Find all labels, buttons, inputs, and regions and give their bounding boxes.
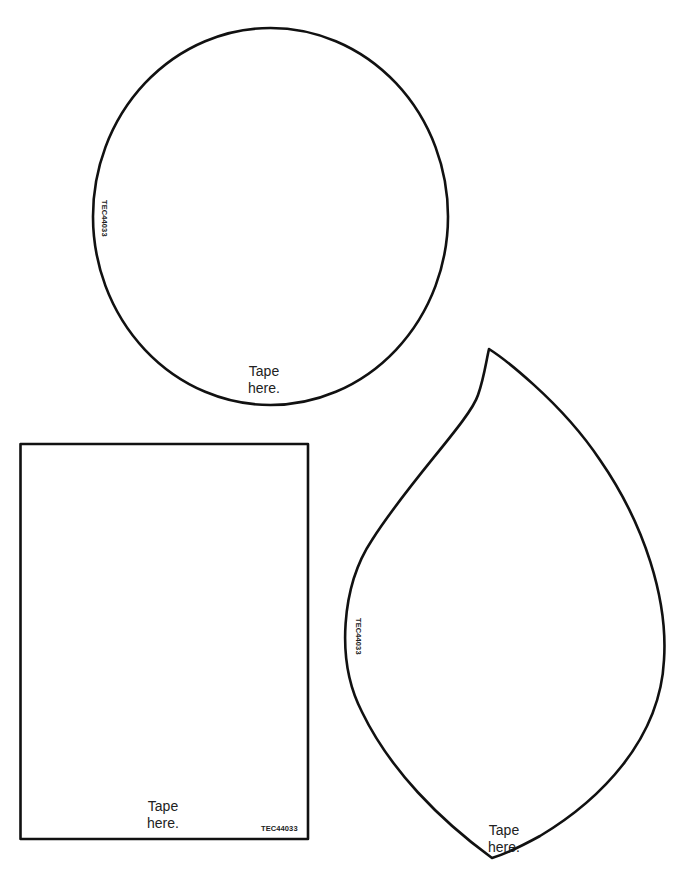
shape-sheet (0, 0, 687, 879)
rectangle-tape-line1: Tape (133, 798, 193, 815)
circle-tape-line2: here. (234, 380, 294, 397)
leaf-tape-line1: Tape (474, 822, 534, 839)
rectangle-tape-here-label: Tape here. (133, 798, 193, 832)
rectangle-cutout-outline (21, 444, 309, 839)
rectangle-tape-line2: here. (133, 815, 193, 832)
leaf-tape-line2: here. (474, 839, 534, 856)
leaf-product-code: TEC44033 (354, 618, 363, 655)
circle-tape-here-label: Tape here. (234, 363, 294, 397)
leaf-cutout-outline (345, 349, 664, 858)
circle-cutout-outline (93, 28, 448, 405)
rectangle-product-code: TEC44033 (261, 824, 298, 833)
circle-tape-line1: Tape (234, 363, 294, 380)
leaf-tape-here-label: Tape here. (474, 822, 534, 856)
circle-product-code: TEC44033 (100, 200, 109, 237)
